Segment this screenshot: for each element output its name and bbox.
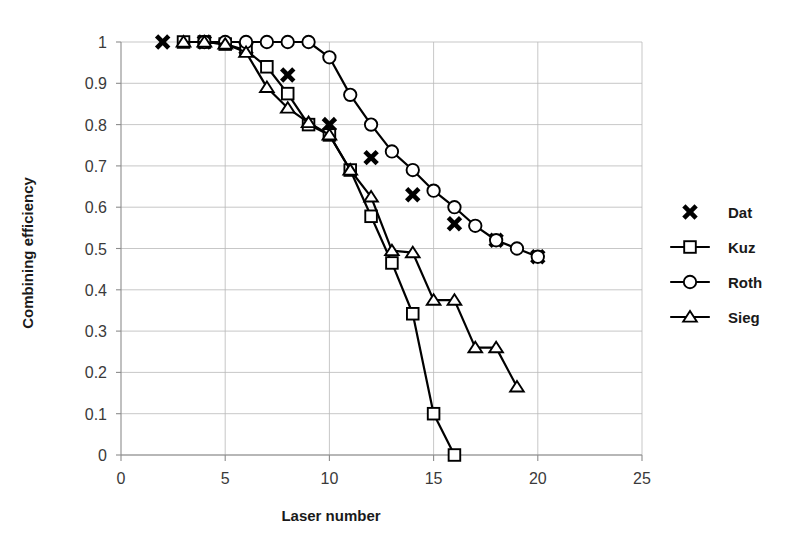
y-tick-label: 0.6	[85, 199, 107, 216]
x-tick-label: 15	[425, 470, 443, 487]
marker-square	[386, 257, 398, 269]
y-tick-label: 1	[98, 34, 107, 51]
y-tick-label: 0.2	[85, 364, 107, 381]
combining-efficiency-chart: 00.10.20.30.40.50.60.70.80.91 0510152025…	[0, 0, 800, 539]
marker-square	[684, 241, 696, 253]
marker-circle	[323, 51, 335, 63]
marker-circle	[448, 201, 460, 213]
y-tick-label: 0.8	[85, 117, 107, 134]
marker-circle	[490, 234, 502, 246]
marker-circle	[365, 118, 377, 130]
y-tick-label: 0.1	[85, 406, 107, 423]
legend-label: Dat	[728, 204, 752, 221]
marker-circle	[282, 36, 294, 48]
marker-circle	[511, 242, 523, 254]
marker-square	[261, 61, 273, 73]
y-tick-label: 0.3	[85, 323, 107, 340]
marker-square	[407, 308, 419, 320]
x-tick-label: 5	[221, 470, 230, 487]
marker-circle	[261, 36, 273, 48]
chart-background	[0, 0, 800, 539]
y-tick-label: 0.9	[85, 75, 107, 92]
legend-label: Kuz	[728, 239, 756, 256]
y-tick-label: 0.4	[85, 282, 107, 299]
x-tick-label: 10	[321, 470, 339, 487]
marker-square	[282, 88, 294, 100]
x-axis-title: Laser number	[281, 507, 380, 524]
marker-square	[449, 449, 461, 461]
legend-label: Roth	[728, 274, 762, 291]
x-tick-label: 0	[117, 470, 126, 487]
marker-circle	[407, 164, 419, 176]
marker-circle	[386, 145, 398, 157]
marker-circle	[532, 251, 544, 263]
marker-circle	[469, 220, 481, 232]
marker-square	[365, 210, 377, 222]
chart-figure: 00.10.20.30.40.50.60.70.80.91 0510152025…	[0, 0, 800, 539]
legend-label: Sieg	[728, 309, 760, 326]
marker-circle	[302, 36, 314, 48]
y-axis-title: Combining efficiency	[19, 177, 36, 329]
y-tick-label: 0.5	[85, 241, 107, 258]
y-tick-label: 0.7	[85, 158, 107, 175]
marker-circle	[427, 184, 439, 196]
y-tick-label: 0	[98, 447, 107, 464]
marker-square	[428, 408, 440, 420]
marker-circle	[684, 276, 696, 288]
x-tick-label: 25	[633, 470, 651, 487]
marker-circle	[344, 89, 356, 101]
x-tick-label: 20	[529, 470, 547, 487]
